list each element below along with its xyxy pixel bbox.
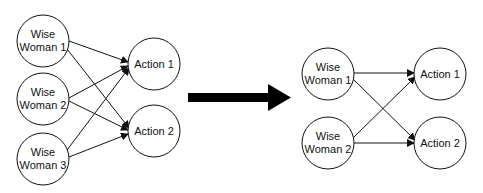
- node-label: Woman 1: [20, 41, 67, 53]
- node-label: Action 1: [134, 58, 174, 70]
- edge-rw2-ra1: [353, 77, 415, 138]
- node-label: Woman 3: [20, 159, 67, 171]
- edge-lw1-la1: [69, 41, 128, 62]
- node-wise-woman-1-left: Wise Woman 1: [17, 15, 69, 67]
- right-edges: [353, 73, 415, 143]
- node-label: Wise: [316, 61, 340, 73]
- edge-lw1-la2: [67, 49, 129, 128]
- node-action-1-left: Action 1: [128, 38, 180, 90]
- node-label: Woman 1: [305, 74, 352, 86]
- node-label: Woman 2: [305, 143, 352, 155]
- node-action-2-left: Action 2: [128, 105, 180, 157]
- node-label: Action 1: [420, 68, 460, 80]
- edge-lw3-la2: [69, 134, 128, 157]
- node-wise-woman-2-right: Wise Woman 2: [302, 117, 354, 169]
- wise-women-diagram: Wise Woman 1 Wise Woman 2 Wise Woman 3 A…: [0, 0, 483, 193]
- node-wise-woman-1-right: Wise Woman 1: [302, 48, 354, 100]
- node-label: Wise: [31, 28, 55, 40]
- node-label: Wise: [31, 86, 55, 98]
- node-action-2-right: Action 2: [414, 117, 466, 169]
- node-wise-woman-2-left: Wise Woman 2: [17, 73, 69, 125]
- transition-arrow-icon: [188, 84, 291, 111]
- left-edges: [67, 41, 129, 157]
- edge-lw2-la1: [69, 66, 128, 98]
- node-label: Wise: [31, 146, 55, 158]
- edge-rw1-ra2: [353, 79, 415, 140]
- node-label: Woman 2: [20, 99, 67, 111]
- node-label: Action 2: [420, 137, 460, 149]
- node-wise-woman-3-left: Wise Woman 3: [17, 133, 69, 185]
- node-label: Wise: [316, 130, 340, 142]
- node-action-1-right: Action 1: [414, 48, 466, 100]
- node-label: Action 2: [134, 125, 174, 137]
